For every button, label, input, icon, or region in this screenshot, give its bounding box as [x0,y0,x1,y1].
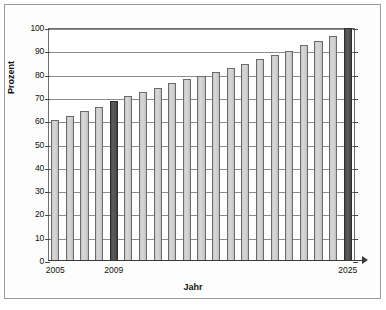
bar-series [48,28,355,261]
bar-2017 [227,68,235,261]
y-tick-0 [45,262,50,263]
bar-2011 [139,92,147,261]
x-axis-line [48,260,363,261]
bar-2025 [344,28,352,261]
bar-2020 [271,55,279,261]
y-tick-label-20: 20 [35,209,44,219]
y-tick-label-10: 10 [35,233,44,243]
bar-2022 [300,45,308,261]
x-tick-label-2025: 2025 [338,265,357,275]
y-tick-label-100: 100 [30,23,44,33]
bar-2007 [80,111,88,261]
bar-2005 [51,120,59,261]
x-axis-arrow-icon [362,256,368,264]
bar-2024 [329,36,337,261]
y-tick-label-40: 40 [35,163,44,173]
x-axis-tick-labels: 200520092025 [48,265,355,279]
bar-2008 [95,107,103,261]
y-tick-label-0: 0 [39,256,44,266]
y-tick-label-80: 80 [35,70,44,80]
y-tick-label-70: 70 [35,93,44,103]
bar-2015 [197,76,205,261]
y-tick-label-50: 50 [35,140,44,150]
chart-screenshot: Prozent 0102030405060708090100 200520092… [0,0,386,310]
bar-2021 [285,51,293,261]
bar-2019 [256,59,264,261]
bar-2012 [154,88,162,261]
y-tick-label-60: 60 [35,116,44,126]
x-axis-title: Jahr [0,282,386,292]
y-tick-label-90: 90 [35,46,44,56]
bar-2016 [212,72,220,261]
y-tick-0 [353,262,358,263]
bar-2014 [183,79,191,261]
bar-2006 [66,116,74,261]
bar-2023 [314,41,322,261]
y-axis-title: Prozent [6,61,16,94]
y-axis-tick-labels: 0102030405060708090100 [22,28,44,261]
bar-2013 [168,83,176,261]
x-tick-label-2005: 2005 [46,265,65,275]
bar-2009 [110,101,118,261]
x-tick-label-2009: 2009 [104,265,123,275]
bar-2010 [124,96,132,261]
bar-2018 [241,64,249,261]
y-tick-label-30: 30 [35,186,44,196]
